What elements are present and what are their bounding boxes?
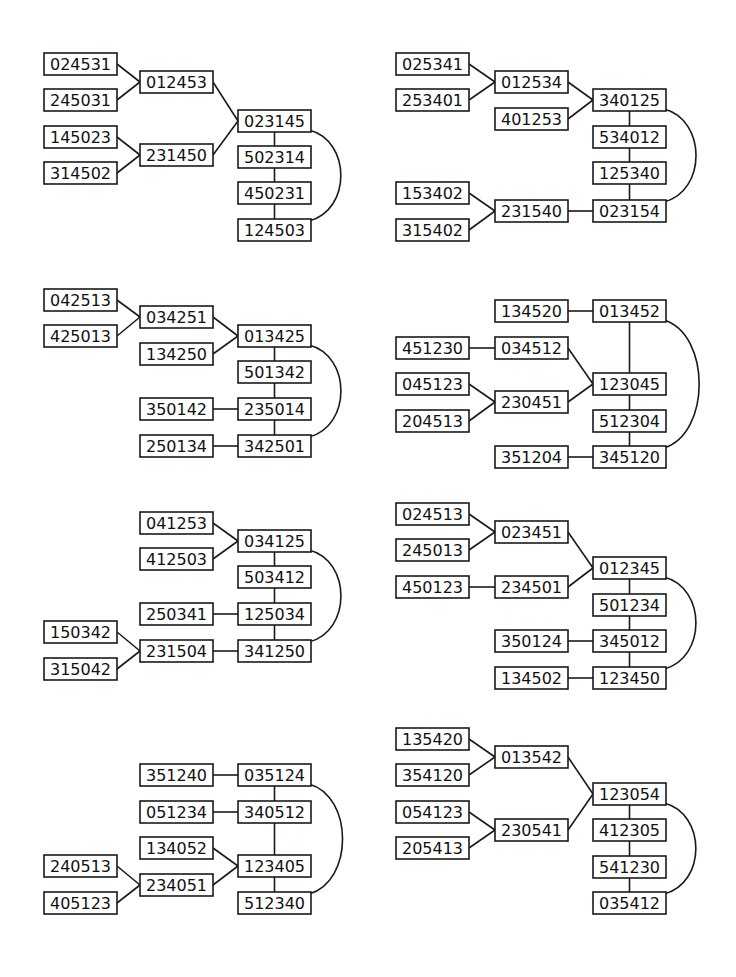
node-label: 341250 [244,642,305,661]
node-label: 250134 [146,437,207,456]
node-label: 054123 [402,803,463,822]
node-box: 045123 [396,373,469,395]
node-label: 412503 [146,550,207,569]
node-box: 231540 [495,200,568,222]
arc-012345-123450 [664,577,696,669]
node-box: 013542 [495,746,568,768]
node-label: 024531 [50,55,111,74]
node-label: 035124 [244,766,305,785]
node-label: 253401 [402,91,463,110]
edge-253401-012534 [469,82,495,100]
node-label: 123054 [599,785,660,804]
edge-412503-034125 [213,541,238,559]
node-box: 041253 [140,512,213,534]
node-label: 350124 [501,632,562,651]
node-box: 235014 [238,398,311,420]
diagram-d7: 3512400351240512343405121340522405132340… [44,764,343,914]
node-label: 013542 [501,748,562,767]
node-box: 123450 [593,667,666,689]
node-box: 351240 [140,764,213,786]
node-label: 534012 [599,128,660,147]
node-box: 250341 [140,603,213,625]
node-label: 123405 [244,857,305,876]
node-label: 235014 [244,400,305,419]
node-box: 354120 [396,764,469,786]
edge-042513-034251 [117,300,140,317]
node-label: 350142 [146,400,207,419]
node-box: 234501 [495,576,568,598]
node-label: 145023 [50,128,111,147]
edge-034251-013425 [213,317,238,336]
node-box: 315402 [396,219,469,241]
node-box: 134250 [140,343,213,365]
node-box: 035124 [238,764,311,786]
node-box: 135420 [396,728,469,750]
node-label: 125340 [599,164,660,183]
node-box: 012345 [593,557,666,579]
node-box: 054123 [396,801,469,823]
edge-054123-230541 [469,812,495,830]
node-label: 025341 [402,55,463,74]
arc-035124-512340 [309,784,343,894]
node-label: 502314 [244,148,305,167]
node-box: 231450 [140,144,213,166]
node-box: 124503 [238,219,311,241]
node-box: 134052 [140,837,213,859]
node-label: 134520 [501,302,562,321]
node-label: 135420 [402,730,463,749]
node-box: 204513 [396,410,469,432]
node-box: 245031 [44,89,117,111]
node-label: 134250 [146,345,207,364]
node-label: 314502 [50,164,111,183]
node-box: 145023 [44,126,117,148]
node-box: 123405 [238,855,311,877]
node-box: 234051 [140,874,213,896]
edge-234051-123405 [213,866,238,885]
node-box: 230541 [495,819,568,841]
node-label: 153402 [402,184,463,203]
node-box: 405123 [44,892,117,914]
edge-012534-340125 [568,82,593,100]
node-label: 042513 [50,291,111,310]
node-label: 123045 [599,375,660,394]
node-box: 230451 [495,391,568,413]
node-box: 534012 [593,126,666,148]
node-box: 023154 [593,200,666,222]
node-box: 012534 [495,71,568,93]
node-label: 231450 [146,146,207,165]
node-label: 034512 [501,339,562,358]
node-label: 013425 [244,327,305,346]
edge-135420-013542 [469,739,495,757]
edge-354120-013542 [469,757,495,775]
arc-123054-035412 [664,803,696,894]
node-box: 051234 [140,801,213,823]
node-box: 012453 [140,71,213,93]
node-box: 240513 [44,855,117,877]
diagram-d8: 1354203541200135420541232054132305411230… [396,728,696,914]
edge-315042-231504 [117,651,140,669]
node-label: 351240 [146,766,207,785]
arc-340125-023154 [664,109,696,202]
edge-230451-123045 [568,384,593,402]
node-label: 023145 [244,112,305,131]
diagram-d5: 0412534125030341255034122503411250341503… [44,512,341,680]
node-box: 314502 [44,162,117,184]
edge-405123-234051 [117,885,140,903]
node-box: 350142 [140,398,213,420]
edge-025341-012534 [469,64,495,82]
node-label: 230541 [501,821,562,840]
node-box: 013452 [593,300,666,322]
node-label: 023451 [501,523,562,542]
edge-024513-023451 [469,514,495,532]
node-box: 512340 [238,892,311,914]
arc-034125-341250 [309,550,341,642]
edge-034512-123045 [568,348,593,384]
node-box: 541230 [593,856,666,878]
node-label: 354120 [402,766,463,785]
node-label: 023154 [599,202,660,221]
node-box: 450231 [238,182,311,204]
edge-013542-123054 [568,757,593,794]
diagram-d1: 0245312450310124531450233145022314500231… [44,53,341,241]
node-box: 412305 [593,819,666,841]
edge-240513-234051 [117,866,140,885]
